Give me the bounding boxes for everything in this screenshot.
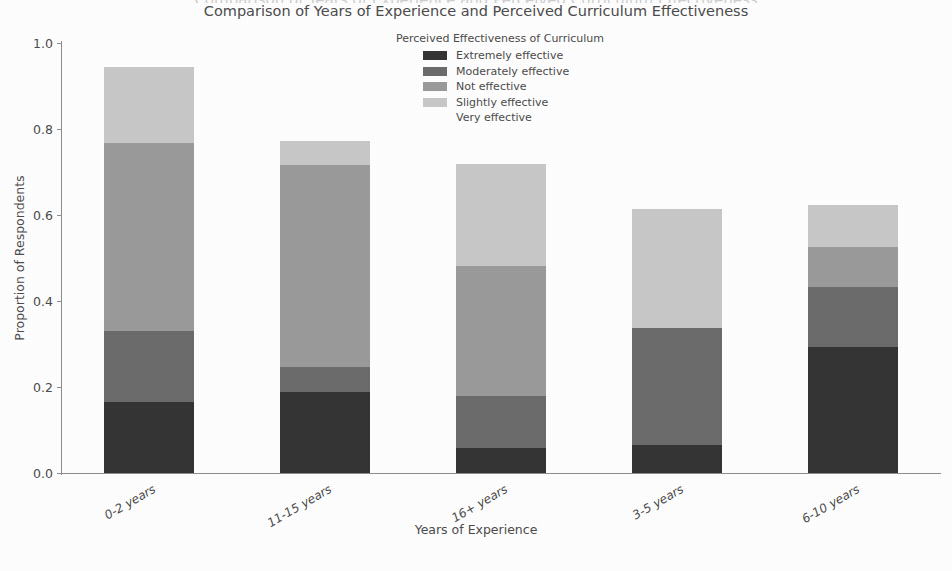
legend-item-label: Very effective [456,111,532,124]
legend-title: Perceived Effectiveness of Curriculum [396,32,604,45]
bar-segment[interactable] [456,396,546,448]
bar-segment[interactable] [808,347,898,473]
legend-item[interactable]: Very effective [396,110,604,126]
legend-item[interactable]: Moderately effective [396,64,604,80]
legend-item-label: Slightly effective [456,96,548,109]
bar-segment[interactable] [808,247,898,287]
bar-segment[interactable] [456,164,546,266]
legend-item[interactable]: Extremely effective [396,48,604,64]
bar-segment[interactable] [456,448,546,473]
legend-swatch-icon [423,67,447,76]
bar-segment[interactable] [280,141,370,165]
chart-figure: Comparison of Years of Experience and Pe… [0,0,952,571]
y-tick-mark [57,215,61,216]
bar-stack[interactable] [808,43,898,473]
bar-segment[interactable] [280,367,370,392]
legend-item-label: Extremely effective [456,49,563,62]
legend-swatch-icon [423,82,447,91]
bar-segment[interactable] [632,209,722,328]
bar-stack[interactable] [104,43,194,473]
bar-segment[interactable] [632,445,722,473]
y-tick-mark [57,43,61,44]
bar-segment[interactable] [632,328,722,445]
bar-segment[interactable] [808,205,898,247]
chart-title: Comparison of Years of Experience and Pe… [0,3,952,19]
legend-item[interactable]: Not effective [396,79,604,95]
y-tick-label: 0.6 [33,208,53,223]
y-tick-mark [57,473,61,474]
legend-entries: Extremely effectiveModerately effectiveN… [396,48,604,126]
y-tick-mark [57,301,61,302]
bar-stack[interactable] [632,43,722,473]
legend-item-label: Moderately effective [456,65,569,78]
y-tick-mark [57,129,61,130]
y-tick-mark [57,387,61,388]
legend-item-label: Not effective [456,80,527,93]
bar-segment[interactable] [104,67,194,144]
legend-swatch-icon [423,98,447,107]
bar-segment[interactable] [104,143,194,331]
bar-segment[interactable] [808,287,898,347]
y-tick-label: 0.4 [33,294,53,309]
bar-segment[interactable] [456,266,546,396]
x-axis-line [61,473,941,474]
legend-item[interactable]: Slightly effective [396,95,604,111]
legend-swatch-icon [423,51,447,60]
legend-swatch-icon [423,113,447,122]
y-tick-label: 0.2 [33,380,53,395]
bar-segment[interactable] [280,392,370,473]
y-tick-label: 0.8 [33,122,53,137]
bar-segment[interactable] [280,165,370,367]
y-tick-label: 1.0 [33,36,53,51]
y-axis-label: Proportion of Respondents [12,175,27,340]
bar-segment[interactable] [104,331,194,402]
y-tick-label: 0.0 [33,466,53,481]
legend: Perceived Effectiveness of Curriculum Ex… [396,32,604,126]
bar-stack[interactable] [280,43,370,473]
bar-segment[interactable] [104,402,194,473]
